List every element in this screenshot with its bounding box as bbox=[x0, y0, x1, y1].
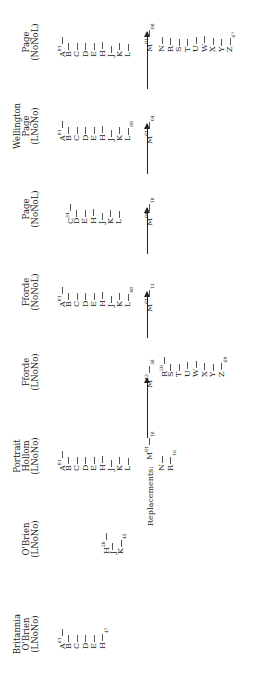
quire-entry: L40 bbox=[124, 287, 136, 307]
stub-line bbox=[93, 209, 94, 216]
stub-line bbox=[162, 456, 163, 463]
stub-line bbox=[170, 457, 171, 464]
leaf-number-top: 01 bbox=[144, 298, 149, 304]
stub-line bbox=[85, 210, 86, 217]
quire-entry: L bbox=[124, 457, 132, 471]
quire-entry: Z67 bbox=[226, 32, 238, 52]
stub-line bbox=[213, 38, 214, 45]
stub-line bbox=[77, 293, 78, 300]
header-line: (LNoNo) bbox=[31, 332, 40, 412]
stub-line bbox=[121, 540, 122, 547]
column-header: BritanniaO'Brien(LNoNo) bbox=[13, 594, 40, 674]
leaf-number-top: 01 bbox=[144, 38, 149, 44]
leaf-number-top: 61 bbox=[57, 637, 62, 643]
leaf-number-bottom: 08 bbox=[150, 23, 155, 29]
stub-line bbox=[68, 127, 69, 134]
stub-line bbox=[221, 39, 222, 46]
leaf-number-bottom: 04 bbox=[150, 115, 155, 121]
quire-entry-m: M0118 bbox=[143, 431, 157, 460]
stub-line bbox=[119, 127, 120, 134]
quire-diagram: Replacements: BritanniaO'Brien(LNoNo)A61… bbox=[0, 0, 257, 674]
stub-line bbox=[119, 43, 120, 50]
column-header: PortraitHollom(LNoNo) bbox=[13, 416, 40, 496]
quire-entry-m: M0104 bbox=[143, 115, 157, 144]
letter: L bbox=[123, 302, 132, 307]
letter: Z bbox=[217, 371, 226, 377]
stub-line bbox=[230, 38, 231, 45]
column-header: Fforde(NoNoL) bbox=[22, 252, 40, 332]
stub-line bbox=[149, 204, 150, 211]
stub-line bbox=[179, 39, 180, 46]
quire-entry-m: M0108 bbox=[143, 23, 157, 52]
stub-line bbox=[85, 43, 86, 50]
letter: K bbox=[116, 548, 125, 554]
leaf-number-bottom: 10 bbox=[150, 197, 155, 203]
stub-line bbox=[128, 44, 129, 51]
stub-line bbox=[112, 543, 113, 550]
stub-line bbox=[62, 451, 63, 458]
stub-line bbox=[196, 37, 197, 44]
stub-line bbox=[62, 629, 63, 636]
stub-line bbox=[102, 126, 103, 133]
stub-line bbox=[196, 361, 197, 368]
letter: Z bbox=[225, 46, 234, 52]
stub-line bbox=[77, 127, 78, 134]
header-line: (NoNoL) bbox=[31, 252, 40, 332]
stub-line bbox=[94, 457, 95, 464]
stub-line bbox=[102, 42, 103, 49]
stub-line bbox=[94, 43, 95, 50]
stub-line bbox=[76, 210, 77, 217]
leaf-number-bottom: 18 bbox=[150, 431, 155, 437]
leaf-number-bottom: 40 bbox=[129, 287, 134, 293]
column-header: Page(NoNoL) bbox=[22, 169, 40, 249]
header-line: (LNoNo) bbox=[31, 499, 40, 579]
stub-line bbox=[94, 635, 95, 642]
stub-line bbox=[149, 30, 150, 37]
quire-entry-m: M0410 bbox=[143, 197, 157, 226]
stub-line bbox=[221, 363, 222, 370]
stub-line bbox=[179, 364, 180, 371]
stub-line bbox=[187, 39, 188, 46]
letter: M bbox=[145, 380, 154, 388]
stub-line bbox=[187, 362, 188, 369]
stub-line bbox=[204, 36, 205, 43]
header-line: (LNoNo) bbox=[31, 594, 40, 674]
stub-line bbox=[119, 211, 120, 218]
stub-line bbox=[170, 38, 171, 45]
stub-line bbox=[149, 438, 150, 445]
stub-line bbox=[204, 363, 205, 370]
leaf-number-top: 01 bbox=[57, 459, 62, 465]
stub-line bbox=[119, 457, 120, 464]
leaf-number-bottom: 45 bbox=[122, 533, 127, 539]
letter: M bbox=[145, 304, 154, 312]
leaf-number-top: 20 bbox=[101, 541, 106, 547]
stub-line bbox=[111, 460, 112, 467]
letter: M bbox=[145, 44, 154, 52]
column-header: Fforde(LNoNo) bbox=[22, 332, 40, 412]
stub-line bbox=[77, 635, 78, 642]
stub-line bbox=[149, 290, 150, 297]
stub-line bbox=[68, 457, 69, 464]
letter: L bbox=[123, 136, 132, 141]
stub-line bbox=[162, 37, 163, 44]
letter: L bbox=[114, 219, 123, 224]
quire-entry-m: M1338 bbox=[143, 359, 157, 388]
stub-line bbox=[68, 293, 69, 300]
stub-line bbox=[128, 128, 129, 135]
letter: M bbox=[145, 136, 154, 144]
leaf-number-top: 01 bbox=[144, 130, 149, 136]
leaf-number-bottom: 47 bbox=[103, 627, 108, 633]
stub-line bbox=[119, 293, 120, 300]
leaf-number-bottom: 38 bbox=[150, 359, 155, 365]
stub-line bbox=[149, 122, 150, 129]
stub-line bbox=[102, 213, 103, 220]
stub-line bbox=[62, 121, 63, 128]
stub-line bbox=[128, 458, 129, 465]
letter: L bbox=[123, 466, 132, 471]
letter: M bbox=[145, 452, 154, 460]
stub-line bbox=[85, 635, 86, 642]
leaf-number-top: 34 bbox=[65, 212, 70, 218]
leaf-number-bottom: 69 bbox=[222, 357, 227, 363]
leaf-number-bottom: 60 bbox=[129, 121, 134, 127]
column-header: WellingtonPage(LNoNo) bbox=[13, 86, 40, 166]
